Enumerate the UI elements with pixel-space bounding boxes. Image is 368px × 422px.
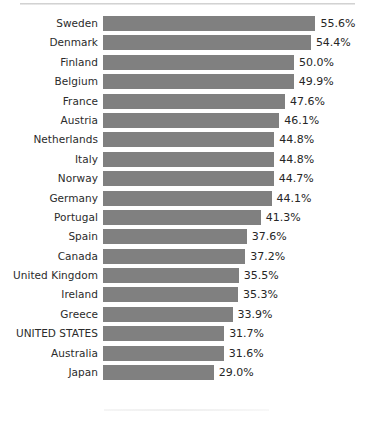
- category-label: Austria: [0, 113, 98, 128]
- bar-row: Finland50.0%: [0, 55, 368, 70]
- value-label: 47.6%: [285, 94, 325, 109]
- bar: [103, 249, 245, 264]
- bar-track: 44.8%: [103, 132, 317, 147]
- bar-track: 47.6%: [103, 94, 317, 109]
- category-label: United Kingdom: [0, 268, 98, 283]
- bar-track: 44.7%: [103, 171, 317, 186]
- bar: [103, 94, 285, 109]
- value-label: 35.3%: [238, 287, 278, 302]
- bar: [103, 307, 233, 322]
- category-label: UNITED STATES: [0, 326, 98, 341]
- bar-row: Canada37.2%: [0, 249, 368, 264]
- category-label: Denmark: [0, 35, 98, 50]
- bar: [103, 346, 224, 361]
- category-label: Japan: [0, 365, 98, 380]
- bar: [103, 132, 274, 147]
- bar-track: 44.8%: [103, 152, 317, 167]
- bar: [103, 152, 274, 167]
- bar: [103, 35, 311, 50]
- bar: [103, 268, 239, 283]
- top-divider-rule: [20, 3, 355, 5]
- bar-track: 41.3%: [103, 210, 317, 225]
- category-label: Greece: [0, 307, 98, 322]
- bar-row: Netherlands44.8%: [0, 132, 368, 147]
- bar: [103, 326, 224, 341]
- category-label: Ireland: [0, 287, 98, 302]
- value-label: 44.8%: [274, 132, 314, 147]
- bar-row: Belgium49.9%: [0, 74, 368, 89]
- bar-row: Norway44.7%: [0, 171, 368, 186]
- category-label: Sweden: [0, 16, 98, 31]
- bar-track: 50.0%: [103, 55, 317, 70]
- value-label: 44.1%: [272, 191, 312, 206]
- category-label: Canada: [0, 249, 98, 264]
- category-label: Netherlands: [0, 132, 98, 147]
- bar-track: 31.6%: [103, 346, 317, 361]
- bar: [103, 191, 272, 206]
- bar-track: 33.9%: [103, 307, 317, 322]
- bar-row: Greece33.9%: [0, 307, 368, 322]
- bar-row: Spain37.6%: [0, 229, 368, 244]
- value-label: 54.4%: [311, 35, 351, 50]
- bar-track: 44.1%: [103, 191, 317, 206]
- value-label: 55.6%: [315, 16, 355, 31]
- bar-track: 37.2%: [103, 249, 317, 264]
- category-label: France: [0, 94, 98, 109]
- value-label: 44.7%: [274, 171, 314, 186]
- bar-track: 54.4%: [103, 35, 317, 50]
- value-label: 35.5%: [239, 268, 279, 283]
- bar-row: Austria46.1%: [0, 113, 368, 128]
- category-label: Australia: [0, 346, 98, 361]
- bar-track: 35.5%: [103, 268, 317, 283]
- category-label: Italy: [0, 152, 98, 167]
- bar-track: 37.6%: [103, 229, 317, 244]
- bar: [103, 171, 274, 186]
- value-label: 44.8%: [274, 152, 314, 167]
- category-label: Portugal: [0, 210, 98, 225]
- category-label: Finland: [0, 55, 98, 70]
- bar-row: Australia31.6%: [0, 346, 368, 361]
- value-label: 37.6%: [247, 229, 287, 244]
- bar-track: 31.7%: [103, 326, 317, 341]
- value-label: 31.7%: [224, 326, 264, 341]
- value-label: 46.1%: [279, 113, 319, 128]
- category-label: Norway: [0, 171, 98, 186]
- bar: [103, 16, 315, 31]
- bar-row: Germany44.1%: [0, 191, 368, 206]
- bar: [103, 229, 247, 244]
- bar-row: Japan29.0%: [0, 365, 368, 380]
- value-label: 50.0%: [294, 55, 334, 70]
- bar-track: 46.1%: [103, 113, 317, 128]
- value-label: 37.2%: [245, 249, 285, 264]
- bar-row: United Kingdom35.5%: [0, 268, 368, 283]
- bar-row: France47.6%: [0, 94, 368, 109]
- bar: [103, 210, 261, 225]
- bar-row: UNITED STATES31.7%: [0, 326, 368, 341]
- value-label: 41.3%: [261, 210, 301, 225]
- bar-row: Sweden55.6%: [0, 16, 368, 31]
- bottom-scan-artifact: [104, 409, 269, 411]
- chart-plot-area: Sweden55.6%Denmark54.4%Finland50.0%Belgi…: [0, 16, 368, 384]
- bar-track: 35.3%: [103, 287, 317, 302]
- bar-row: Italy44.8%: [0, 152, 368, 167]
- bar-row: Ireland35.3%: [0, 287, 368, 302]
- bar-track: 49.9%: [103, 74, 317, 89]
- bar: [103, 287, 238, 302]
- bar: [103, 74, 294, 89]
- value-label: 49.9%: [294, 74, 334, 89]
- bar-track: 55.6%: [103, 16, 317, 31]
- category-label: Spain: [0, 229, 98, 244]
- bar-chart: Sweden55.6%Denmark54.4%Finland50.0%Belgi…: [0, 0, 368, 422]
- value-label: 33.9%: [233, 307, 273, 322]
- bar: [103, 55, 294, 70]
- category-label: Belgium: [0, 74, 98, 89]
- value-label: 29.0%: [214, 365, 254, 380]
- category-label: Germany: [0, 191, 98, 206]
- bar-row: Portugal41.3%: [0, 210, 368, 225]
- bar-row: Denmark54.4%: [0, 35, 368, 50]
- bar: [103, 365, 214, 380]
- value-label: 31.6%: [224, 346, 264, 361]
- bar-track: 29.0%: [103, 365, 317, 380]
- bar: [103, 113, 279, 128]
